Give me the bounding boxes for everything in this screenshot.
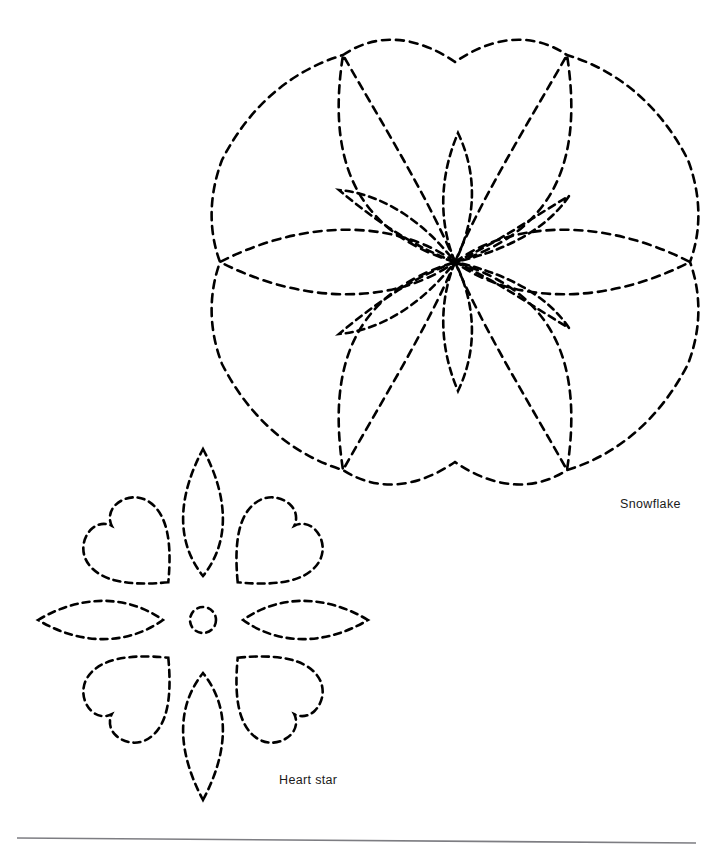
heart-star-petal-e [243,601,368,639]
heart-star-label: Heart star [279,773,337,787]
snowflake-figure [212,40,699,485]
snowflake-petal-sw [339,262,455,470]
heart-star-heart-nw [72,486,199,613]
snowflake-inner-petal-sw [339,262,455,334]
page-canvas: Snowflake Heart star [0,0,725,850]
heart-star-heart-sw [72,627,199,754]
heart-star-heart-ne [207,486,334,613]
snowflake-label: Snowflake [620,497,681,511]
snowflake-petal-w [220,230,455,295]
heart-star-figure [38,449,368,800]
heart-star-petal-n [183,449,223,576]
page-rule-divider [17,838,696,843]
snowflake-petal-e [455,230,690,295]
pattern-artwork [0,0,725,850]
heart-star-center-circle [190,607,216,633]
heart-star-heart-se [207,627,334,754]
heart-star-petal-w [38,601,163,639]
heart-star-petal-s [183,673,223,800]
